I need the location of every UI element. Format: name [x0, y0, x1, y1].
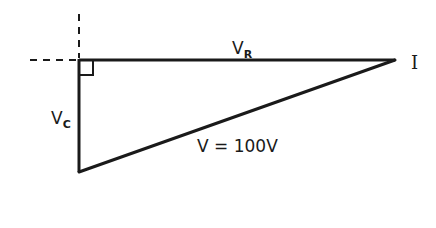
current-label: I — [411, 52, 418, 73]
vc-label: VC — [51, 108, 71, 131]
vr-label: VR — [232, 38, 253, 61]
phasor-diagram: VR I VC V = 100V — [0, 0, 436, 228]
total-voltage-label: V = 100V — [197, 136, 278, 156]
right-angle-marker — [79, 60, 93, 75]
